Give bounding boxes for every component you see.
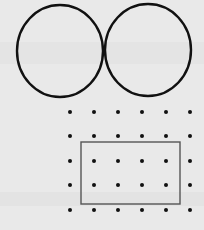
rectangle bbox=[81, 142, 180, 204]
grid-dot bbox=[164, 183, 168, 187]
grid-dot bbox=[92, 183, 96, 187]
grid-dot bbox=[116, 110, 120, 114]
grid-dot bbox=[68, 159, 72, 163]
left-circle bbox=[17, 5, 103, 97]
grid-dot bbox=[140, 134, 144, 138]
grid-dot bbox=[92, 208, 96, 212]
grid-dot bbox=[68, 110, 72, 114]
grid-dot bbox=[92, 110, 96, 114]
grid-dot bbox=[68, 134, 72, 138]
grid-dot bbox=[188, 183, 192, 187]
grid-dot bbox=[92, 159, 96, 163]
grid-dot bbox=[164, 208, 168, 212]
diagram-svg bbox=[0, 0, 204, 230]
grid-dot bbox=[116, 134, 120, 138]
grid-dot bbox=[140, 208, 144, 212]
grid-dot bbox=[68, 183, 72, 187]
grid-dot bbox=[164, 110, 168, 114]
grid-dot bbox=[188, 208, 192, 212]
grid-dot bbox=[92, 134, 96, 138]
grid-dot bbox=[68, 208, 72, 212]
grid-dot bbox=[116, 208, 120, 212]
figure-canvas bbox=[0, 0, 204, 230]
grid-dot bbox=[140, 159, 144, 163]
grid-dot bbox=[116, 159, 120, 163]
grid-dot bbox=[116, 183, 120, 187]
right-circle bbox=[105, 4, 191, 96]
circles-group bbox=[17, 4, 191, 97]
dot-grid bbox=[68, 110, 192, 212]
grid-dot bbox=[188, 110, 192, 114]
grid-dot bbox=[140, 110, 144, 114]
grid-dot bbox=[140, 183, 144, 187]
grid-dot bbox=[188, 134, 192, 138]
rectangle-group bbox=[81, 142, 180, 204]
grid-dot bbox=[188, 159, 192, 163]
grid-dot bbox=[164, 134, 168, 138]
grid-dot bbox=[164, 159, 168, 163]
